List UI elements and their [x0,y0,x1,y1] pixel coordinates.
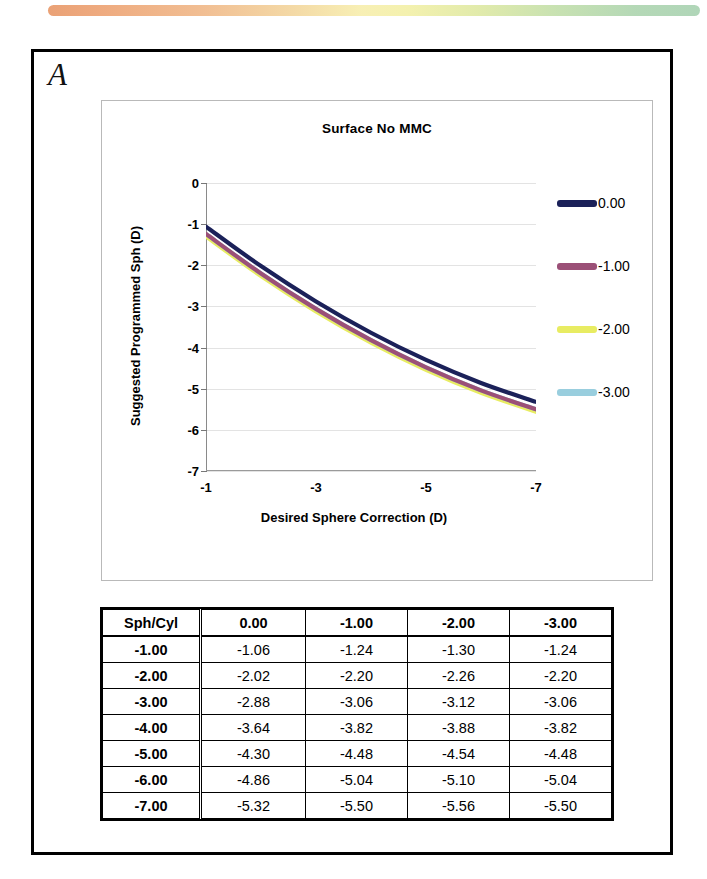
table-row: -4.00-3.64-3.82-3.88-3.82 [103,715,612,741]
legend-item-0.00[interactable]: 0.00 [557,194,625,212]
table-row-header: -1.00 [103,636,201,663]
table-cell: -1.06 [201,636,306,663]
y-tick-label: 0 [192,176,199,191]
y-axis-title: Suggested Programmed Sph (D) [124,161,146,491]
table-header-row: Sph/Cyl0.00-1.00-2.00-3.00 [103,610,612,637]
table-column-header: -2.00 [407,610,509,637]
y-tick-label: -5 [187,381,199,396]
table-cell: -5.56 [407,793,509,819]
legend-item--2.00[interactable]: -2.00 [557,320,630,338]
panel-label: A [48,59,67,90]
table-corner-header: Sph/Cyl [103,610,201,637]
table-row-header: -2.00 [103,663,201,689]
table-cell: -4.30 [201,741,306,767]
legend-swatch--3.00 [557,389,597,396]
table-cell: -1.24 [305,636,407,663]
table-cell: -2.20 [305,663,407,689]
table-cell: -3.88 [407,715,509,741]
table-cell: -3.64 [201,715,306,741]
x-tick-label: -5 [420,480,432,495]
table-row-header: -6.00 [103,767,201,793]
table-cell: -3.06 [305,689,407,715]
table-cell: -2.88 [201,689,306,715]
legend-label: -1.00 [598,258,630,274]
table-header: Sph/Cyl0.00-1.00-2.00-3.00 [103,610,612,637]
table-cell: -5.32 [201,793,306,819]
table-cell: -3.82 [509,715,611,741]
y-tick-label: -1 [187,217,199,232]
table-row-header: -5.00 [103,741,201,767]
table-cell: -5.10 [407,767,509,793]
table-row: -7.00-5.32-5.50-5.56-5.50 [103,793,612,819]
x-tick-label: -3 [310,480,322,495]
y-tick-label: -3 [187,299,199,314]
x-tick-label: -7 [530,480,542,495]
chart-series-lines [206,183,536,471]
series-line-0.00 [206,227,536,402]
y-axis-title-text: Suggested Programmed Sph (D) [128,226,143,426]
table-row: -5.00-4.30-4.48-4.54-4.48 [103,741,612,767]
table-cell: -2.26 [407,663,509,689]
x-tick-label: -1 [200,480,212,495]
legend-item--1.00[interactable]: -1.00 [557,257,630,275]
table-column-header: 0.00 [201,610,306,637]
legend-swatch--1.00 [557,263,597,270]
table-row: -6.00-4.86-5.04-5.10-5.04 [103,767,612,793]
table-cell: -4.48 [509,741,611,767]
table-cell: -5.50 [509,793,611,819]
table-row-header: -7.00 [103,793,201,819]
table-column-header: -3.00 [509,610,611,637]
legend-item--3.00[interactable]: -3.00 [557,383,630,401]
table-cell: -5.04 [305,767,407,793]
chart-container: Surface No MMC Suggested Programmed Sph … [101,100,653,581]
table-column-header: -1.00 [305,610,407,637]
y-tick-label: -6 [187,422,199,437]
legend-label: -2.00 [598,321,630,337]
y-tick-label: -7 [187,464,199,479]
table-cell: -5.04 [509,767,611,793]
chart-title: Surface No MMC [102,121,652,136]
table-cell: -5.50 [305,793,407,819]
y-tick-label: -4 [187,340,199,355]
y-gridline [206,471,536,472]
plot-area: -7-6-5-4-3-2-10 -1-3-5-7 [206,183,536,471]
table-cell: -3.06 [509,689,611,715]
table-row: -2.00-2.02-2.20-2.26-2.20 [103,663,612,689]
table-row: -3.00-2.88-3.06-3.12-3.06 [103,689,612,715]
legend-swatch-0.00 [557,200,597,207]
y-tick-mark [201,471,207,472]
x-axis-title: Desired Sphere Correction (D) [174,510,534,525]
y-tick-label: -2 [187,258,199,273]
table-cell: -4.48 [305,741,407,767]
table-cell: -1.30 [407,636,509,663]
table-cell: -4.86 [201,767,306,793]
figure-frame: A Surface No MMC Suggested Programmed Sp… [31,49,673,855]
table-cell: -2.20 [509,663,611,689]
decorative-gradient-bar [48,5,700,16]
table-cell: -3.82 [305,715,407,741]
table-cell: -4.54 [407,741,509,767]
table-cell: -1.24 [509,636,611,663]
table-cell: -2.02 [201,663,306,689]
table-row-header: -4.00 [103,715,201,741]
data-table: Sph/Cyl0.00-1.00-2.00-3.00 -1.00-1.06-1.… [102,609,612,819]
legend-label: -3.00 [598,384,630,400]
table-cell: -3.12 [407,689,509,715]
table-row-header: -3.00 [103,689,201,715]
data-table-container: Sph/Cyl0.00-1.00-2.00-3.00 -1.00-1.06-1.… [100,607,614,821]
legend-label: 0.00 [598,195,625,211]
table-row: -1.00-1.06-1.24-1.30-1.24 [103,636,612,663]
legend-swatch--2.00 [557,326,597,333]
table-body: -1.00-1.06-1.24-1.30-1.24-2.00-2.02-2.20… [103,636,612,819]
